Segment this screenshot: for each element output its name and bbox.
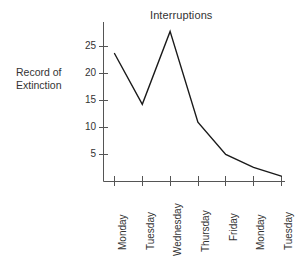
data-series-line <box>115 31 282 176</box>
chart-figure: Interruptions Record of Extinction 25 20… <box>0 0 303 258</box>
chart-canvas <box>0 0 303 258</box>
